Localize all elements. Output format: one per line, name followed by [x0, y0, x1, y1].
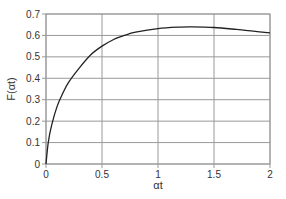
y-tick-label: 0.4 — [26, 73, 40, 84]
y-tick-label: 0.3 — [26, 94, 40, 105]
y-axis-ticks: 00.10.20.30.40.50.60.7 — [26, 9, 46, 170]
y-tick-label: 0.5 — [26, 51, 40, 62]
y-tick-label: 0.1 — [26, 137, 40, 148]
y-tick-label: 0.6 — [26, 30, 40, 41]
x-tick-label: 2 — [267, 169, 273, 180]
y-tick-label: 0.2 — [26, 116, 40, 127]
y-tick-label: 0.7 — [26, 9, 40, 20]
y-axis-label: F(αt) — [5, 77, 17, 100]
x-axis-label: αt — [153, 179, 162, 191]
x-tick-label: 0 — [43, 169, 49, 180]
y-tick-label: 0 — [34, 159, 40, 170]
x-tick-label: 1.5 — [207, 169, 221, 180]
grid-lines — [46, 14, 270, 164]
line-chart: 00.10.20.30.40.50.60.7 00.511.52 αt F(αt… — [0, 0, 286, 199]
x-tick-label: 0.5 — [95, 169, 109, 180]
x-axis-ticks: 00.511.52 — [43, 164, 273, 180]
